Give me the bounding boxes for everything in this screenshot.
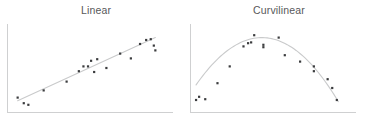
data-point	[154, 49, 156, 51]
data-point	[216, 82, 218, 84]
plot-area-curvilinear	[183, 0, 367, 123]
data-point	[331, 87, 333, 89]
data-point	[96, 58, 98, 60]
data-point	[153, 45, 155, 47]
data-point	[130, 57, 132, 59]
data-point	[204, 98, 206, 100]
data-point	[119, 53, 121, 55]
data-point	[247, 42, 249, 44]
data-point	[327, 78, 329, 80]
data-point	[198, 96, 200, 98]
data-point	[90, 60, 92, 62]
linear-trendline	[18, 38, 156, 101]
data-point	[284, 54, 286, 56]
data-point	[23, 102, 25, 104]
quadratic-trendline	[196, 38, 338, 102]
data-point	[17, 97, 19, 99]
data-point	[43, 89, 45, 91]
data-point	[313, 65, 315, 67]
data-point	[139, 43, 141, 45]
data-point	[150, 38, 152, 40]
plot-area-linear	[0, 0, 184, 123]
data-point	[278, 37, 280, 39]
panel-linear: Linear	[0, 0, 184, 123]
scatterplot-figure: Linear Curvilinear	[0, 0, 367, 123]
data-point	[93, 71, 95, 73]
data-point	[250, 41, 252, 43]
data-point	[78, 70, 80, 72]
data-point	[262, 44, 264, 46]
data-point	[105, 67, 107, 69]
panel-curvilinear: Curvilinear	[183, 0, 367, 123]
data-point	[27, 104, 29, 106]
data-point	[66, 81, 68, 83]
data-point	[242, 45, 244, 47]
data-point	[253, 34, 255, 36]
data-point	[145, 39, 147, 41]
data-point	[195, 99, 197, 101]
data-point	[262, 46, 264, 48]
data-point	[82, 65, 84, 67]
data-point	[336, 99, 338, 101]
data-point	[313, 70, 315, 72]
data-point	[87, 65, 89, 67]
data-point	[229, 65, 231, 67]
data-point	[299, 61, 301, 63]
